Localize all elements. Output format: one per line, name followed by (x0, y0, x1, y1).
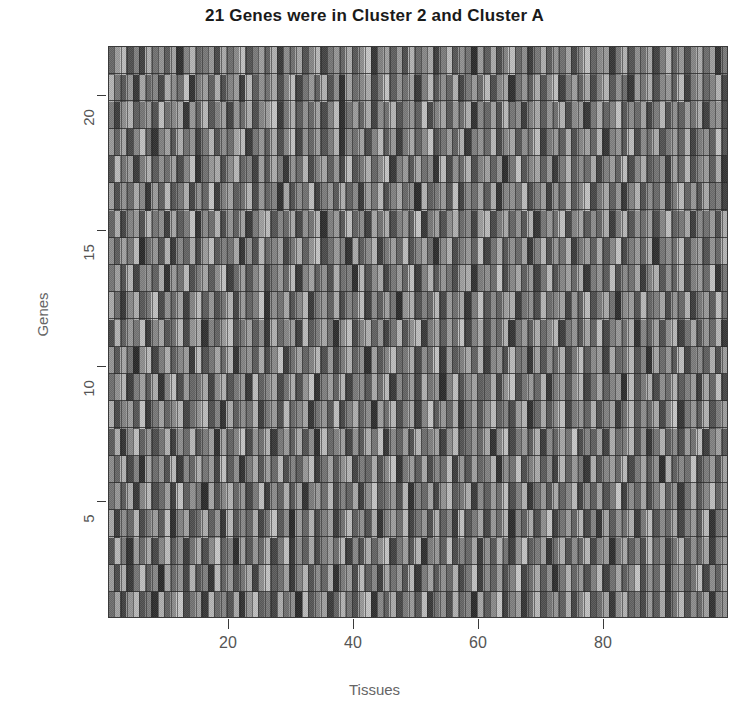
x-axis-label: Tissues (0, 681, 749, 698)
x-tick-label-80: 80 (578, 634, 628, 652)
y-tick-mark-5 (97, 501, 106, 502)
chart-title: 21 Genes were in Cluster 2 and Cluster A (0, 6, 749, 26)
y-tick-mark-20 (97, 95, 106, 96)
y-tick-label-20: 20 (80, 96, 97, 140)
x-tick-label-60: 60 (453, 634, 503, 652)
x-tick-label-40: 40 (328, 634, 378, 652)
x-tick-mark-80 (603, 619, 604, 629)
heatmap-canvas (108, 46, 728, 618)
y-tick-label-5: 5 (80, 502, 97, 536)
x-tick-mark-60 (478, 619, 479, 629)
y-axis-label: Genes (34, 265, 51, 365)
y-tick-label-10: 10 (80, 367, 97, 411)
heatmap-plot-area (108, 46, 728, 618)
x-tick-mark-20 (228, 619, 229, 629)
x-tick-mark-40 (353, 619, 354, 629)
y-tick-label-15: 15 (80, 231, 97, 275)
y-tick-mark-15 (97, 230, 106, 231)
y-tick-mark-10 (97, 366, 106, 367)
x-tick-label-20: 20 (203, 634, 253, 652)
